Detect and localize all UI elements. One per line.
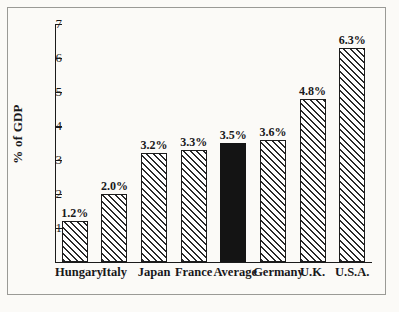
bar-value-label: 1.2% xyxy=(61,207,88,219)
y-tick-mark xyxy=(56,58,62,59)
x-label-france: France xyxy=(174,266,214,280)
bar-germany: 3.6% xyxy=(260,140,286,262)
bar-chart-plot-area: % of GDP 1234567 1.2%2.0%3.2%3.3%3.5%3.6… xyxy=(0,0,399,312)
bar-value-label: 3.5% xyxy=(220,129,247,141)
x-label-u-k: U.K. xyxy=(293,266,333,280)
bar-average: 3.5% xyxy=(220,143,246,262)
x-label-germany: Germany xyxy=(253,266,293,280)
bar-italy: 2.0% xyxy=(101,194,127,262)
x-label-average: Average xyxy=(214,266,254,280)
y-tick-mark xyxy=(56,194,62,195)
bar-japan: 3.2% xyxy=(141,153,167,262)
y-tick-mark xyxy=(56,92,62,93)
x-label-u-s-a: U.S.A. xyxy=(332,266,372,280)
x-label-japan: Japan xyxy=(134,266,174,280)
bar-value-label: 3.3% xyxy=(180,136,207,148)
y-tick-mark xyxy=(56,160,62,161)
x-label-hungary: Hungary xyxy=(55,266,95,280)
bar-france: 3.3% xyxy=(181,150,207,262)
y-tick-mark xyxy=(56,24,62,25)
bar-u-k: 4.8% xyxy=(300,99,326,262)
y-axis-title: % of GDP xyxy=(10,94,26,174)
bar-value-label: 2.0% xyxy=(101,180,128,192)
bar-value-label: 4.8% xyxy=(299,85,326,97)
bar-value-label: 3.6% xyxy=(259,126,286,138)
bar-u-s-a: 6.3% xyxy=(339,48,365,262)
x-label-italy: Italy xyxy=(95,266,135,280)
bar-value-label: 3.2% xyxy=(141,139,168,151)
x-axis-line xyxy=(55,262,372,263)
bar-hungary: 1.2% xyxy=(62,221,88,262)
bar-value-label: 6.3% xyxy=(339,34,366,46)
y-tick-mark xyxy=(56,126,62,127)
chart-page: % of GDP 1234567 1.2%2.0%3.2%3.3%3.5%3.6… xyxy=(0,0,399,312)
